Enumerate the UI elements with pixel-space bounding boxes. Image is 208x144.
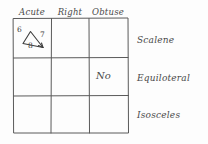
triangle-classification-grid-page: Acute Right Obtuse 6 7 8 No Scalene Equi… [0, 0, 208, 144]
row-label-isosceles: Isosceles [137, 110, 180, 120]
row-label-equiloteral: Equiloteral [137, 73, 190, 83]
cell-obtuse-equiloteral-text: No [96, 70, 111, 81]
triangle-side-label-7: 7 [40, 30, 45, 39]
triangle-side-label-6: 6 [17, 25, 22, 34]
triangle-side-label-8: 8 [28, 41, 33, 50]
row-label-scalene: Scalene [137, 35, 174, 45]
